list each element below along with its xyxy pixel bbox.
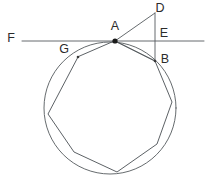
point-label-f: F [7,31,15,45]
vertex-dot-b [154,60,157,63]
point-label-e: E [160,26,168,40]
vertex-dot-g [77,56,80,59]
circumscribed-circle [44,42,176,174]
geometry-diagram-svg: A B D E F G [0,0,206,180]
point-label-d: D [155,1,164,15]
point-label-a: A [111,19,120,33]
point-label-b: B [161,52,169,66]
geometry-figure: A B D E F G [0,0,206,180]
vertex-dot-a [112,38,117,43]
segment-a-to-b [115,41,155,61]
point-label-g: G [59,42,69,56]
segment-a-to-d [115,13,155,41]
